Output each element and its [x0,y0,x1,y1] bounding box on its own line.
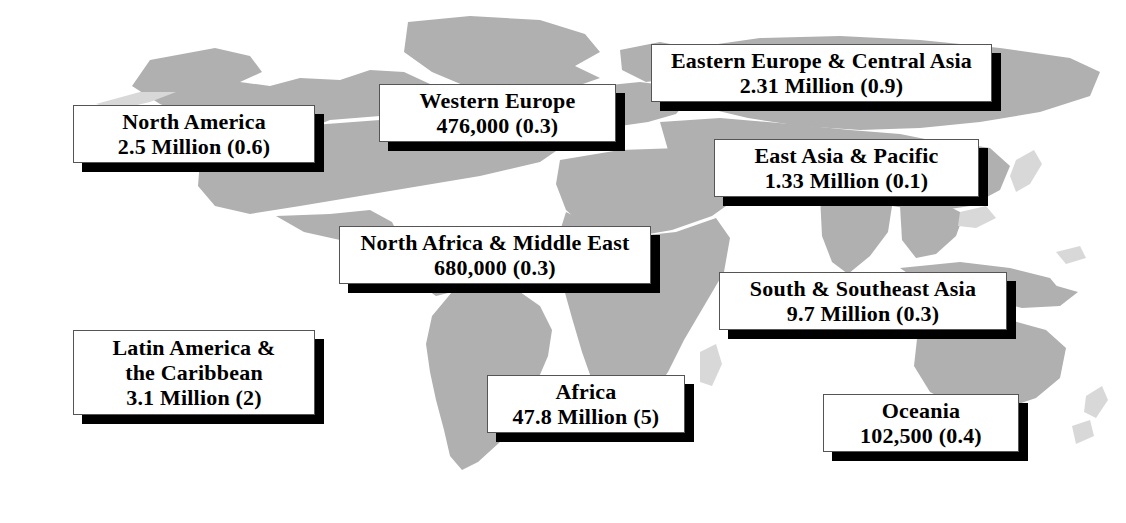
callout-region-label: South & Southeast Asia [750,276,976,301]
callout-region-label: Oceania [882,398,960,423]
callout-value-label: 2.5 Million (0.6) [118,134,271,159]
callout-value-label: 2.31 Million (0.9) [740,73,904,98]
callout-north-africa-middle-east: North Africa & Middle East680,000 (0.3) [339,226,651,284]
callout-value-label: 102,500 (0.4) [860,423,982,448]
callout-east-asia-pacific: East Asia & Pacific1.33 Million (0.1) [714,139,979,197]
callout-eastern-europe-central-asia: Eastern Europe & Central Asia2.31 Millio… [651,44,992,102]
callout-oceania: Oceania102,500 (0.4) [823,394,1019,452]
callout-value-label: 47.8 Million (5) [513,404,660,429]
callout-value-label: 680,000 (0.3) [434,255,556,280]
callout-value-label: 476,000 (0.3) [437,113,559,138]
callout-region-label: Africa [555,379,616,404]
callout-region-label: Latin America & [112,335,275,360]
callout-south-southeast-asia: South & Southeast Asia9.7 Million (0.3) [719,272,1007,330]
callout-value-label: 3.1 Million (2) [126,385,262,410]
callout-value-label: 1.33 Million (0.1) [765,168,929,193]
callout-western-europe: Western Europe476,000 (0.3) [379,84,616,142]
callout-north-america: North America2.5 Million (0.6) [73,105,315,163]
world-map-infographic: North America2.5 Million (0.6)Western Eu… [0,0,1126,523]
callout-value-label: 9.7 Million (0.3) [787,301,940,326]
callout-region-label: Western Europe [420,88,576,113]
callout-region-label: North America [122,109,266,134]
callout-region-label: Eastern Europe & Central Asia [671,48,972,73]
callout-region-label: East Asia & Pacific [754,143,938,168]
callout-africa: Africa47.8 Million (5) [487,375,685,433]
callout-value-label: the Caribbean [125,360,263,385]
callout-latin-america-caribbean: Latin America &the Caribbean3.1 Million … [73,330,315,415]
callout-region-label: North Africa & Middle East [360,230,629,255]
